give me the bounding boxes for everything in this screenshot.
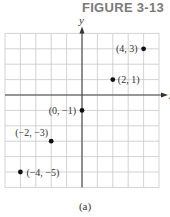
point-label: (2, 1)	[118, 74, 140, 86]
data-point	[110, 77, 115, 82]
data-point	[49, 139, 54, 144]
x-axis-arrow-icon	[161, 93, 168, 98]
y-axis-arrow-icon	[80, 26, 85, 33]
point-label: (0, −1)	[49, 105, 76, 117]
point-label: (−2, −3)	[15, 127, 48, 139]
data-point	[80, 108, 85, 113]
data-point	[18, 170, 23, 175]
figure-caption: (a)	[0, 200, 170, 212]
point-label: (4, 3)	[116, 43, 138, 55]
point-label: (−4, −5)	[26, 167, 59, 179]
x-axis-label: x	[168, 89, 170, 101]
coordinate-plot: xy(4, 3)(2, 1)(0, −1)(−2, −3)(−4, −5)	[0, 0, 170, 217]
data-point	[141, 46, 146, 51]
y-axis-label: y	[78, 14, 84, 26]
